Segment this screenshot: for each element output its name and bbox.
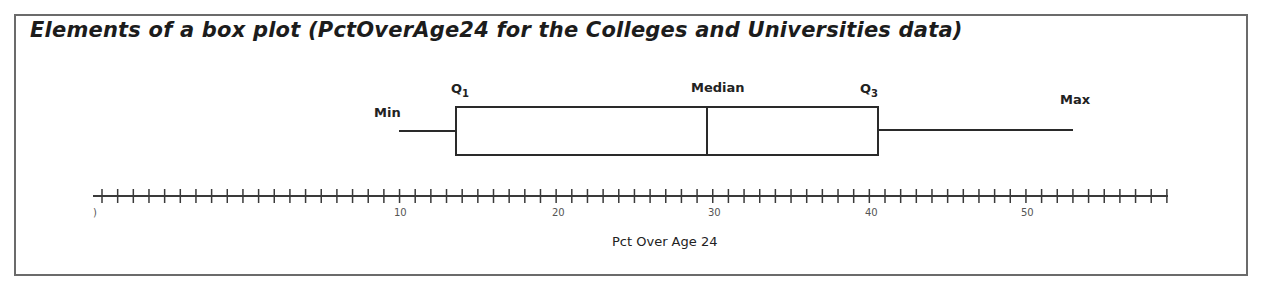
tick-label-30: 30 [708, 207, 721, 218]
median-label: Median [691, 80, 745, 95]
iqr-box [456, 107, 878, 155]
tick-label-40: 40 [865, 207, 878, 218]
x-axis-title: Pct Over Age 24 [612, 234, 717, 249]
q1-label: Q1 [451, 81, 469, 99]
box-plot-chart: Min Q1 Median Q3 Max ) 10 20 30 40 50 Pc… [0, 0, 1265, 303]
tick-label-50: 50 [1021, 207, 1034, 218]
tick-label-10: 10 [394, 207, 407, 218]
tick-label-0: ) [93, 207, 97, 218]
tick-label-20: 20 [552, 207, 565, 218]
max-label: Max [1060, 92, 1091, 107]
q3-label: Q3 [860, 81, 878, 99]
min-label: Min [374, 105, 401, 120]
